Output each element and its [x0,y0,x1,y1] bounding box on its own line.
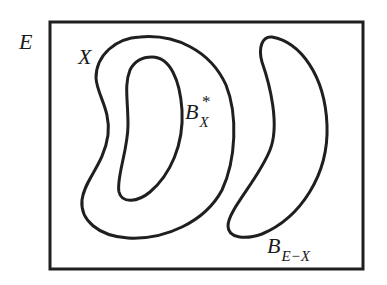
b-star-x-curve [119,57,183,200]
set-x-label-text: X [78,44,91,69]
b-e-minus-x-subscript: E−X [281,248,309,264]
b-star-x-label: BX* [185,101,208,123]
b-star-x-superscript: * [202,93,211,110]
set-x-curve [82,37,234,239]
universe-label: E [19,31,32,53]
set-diagram [0,0,387,285]
b-e-minus-x-curve [228,37,327,237]
b-e-minus-x-base: B [267,233,280,258]
b-e-minus-x-label: BE−X [267,235,309,257]
b-star-x-subscript: X [199,114,208,130]
set-x-label: X [78,46,91,68]
universe-label-text: E [19,29,32,54]
b-star-x-base: B [185,99,198,124]
